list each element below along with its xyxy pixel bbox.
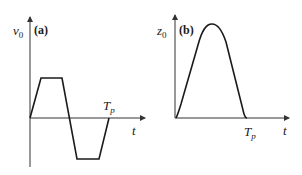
panel-a-period-label-sub: p <box>110 105 115 115</box>
panel-b-displacement-curve <box>176 24 247 118</box>
panel-a-period-label: Tp <box>103 99 115 112</box>
panel-a-t-label: t <box>132 124 136 137</box>
panel-a-y-label: v0 <box>13 24 23 37</box>
panel-b-period-label: Tp <box>244 125 256 138</box>
panel-a-tag: (a) <box>34 24 48 36</box>
panel-a <box>30 17 145 167</box>
panel-b-y-label: z0 <box>157 24 167 37</box>
panel-a-y-label-sub: 0 <box>19 30 24 40</box>
panel-b-t-label: t <box>283 124 287 137</box>
panel-a-y-label-base: v <box>13 23 19 38</box>
panel-b-y-label-sub: 0 <box>162 30 167 40</box>
panel-b-period-label-sub: p <box>251 131 256 141</box>
panel-b-tag: (b) <box>179 24 194 36</box>
